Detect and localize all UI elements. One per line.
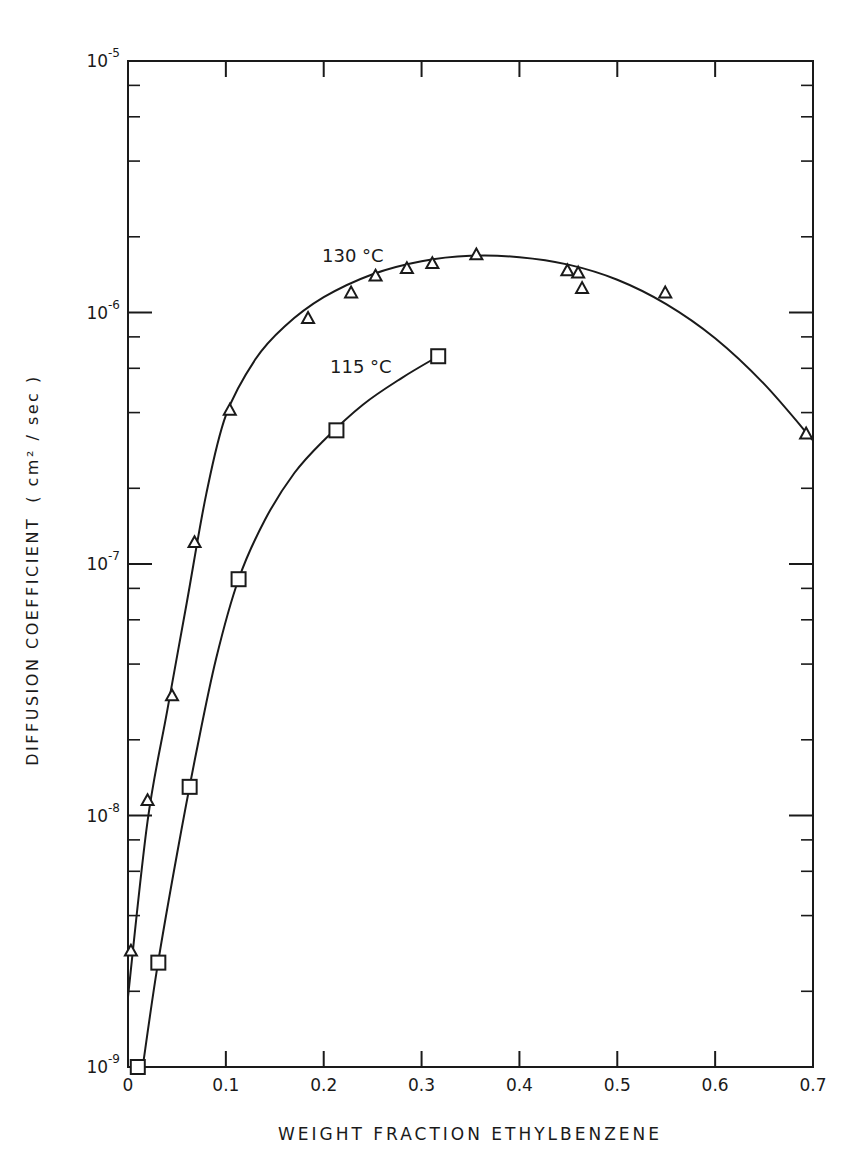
axis-ticks — [128, 61, 813, 1067]
label-115C: 115 °C — [330, 356, 392, 377]
y-tick-label: 10-5 — [86, 46, 120, 71]
square-marker — [183, 780, 197, 794]
plot-frame — [128, 61, 813, 1067]
y-axis-title: DIFFUSION COEFFICIENT( cm² / sec ) — [23, 374, 42, 765]
x-tick-label: 0.7 — [799, 1075, 826, 1095]
fit-curve — [143, 356, 439, 1067]
triangle-marker — [345, 287, 357, 298]
x-tick-label: 0.6 — [702, 1075, 729, 1095]
fit-curve — [128, 256, 813, 997]
x-tick-label: 0.4 — [506, 1075, 533, 1095]
triangle-marker — [166, 690, 178, 701]
triangle-marker — [302, 312, 314, 323]
square-marker — [232, 572, 246, 586]
y-axis-title-units: ( cm² / sec ) — [23, 374, 42, 503]
data-markers — [125, 249, 812, 1074]
y-tick-label: 10-6 — [86, 298, 120, 323]
series-annotations: 130 °C115 °C — [322, 245, 392, 377]
chart-canvas: 00.10.20.30.40.50.60.710-910-810-710-610… — [0, 0, 860, 1167]
axis-tick-labels: 00.10.20.30.40.50.60.710-910-810-710-610… — [86, 46, 826, 1095]
square-marker — [151, 956, 165, 970]
square-marker — [131, 1060, 145, 1074]
x-tick-label: 0.5 — [604, 1075, 631, 1095]
triangle-marker — [470, 249, 482, 260]
x-tick-label: 0.1 — [212, 1075, 239, 1095]
x-axis-title: WEIGHT FRACTION ETHYLBENZENE — [278, 1124, 662, 1144]
triangle-marker — [125, 945, 137, 956]
plot-axes — [128, 61, 813, 1067]
y-axis-title-main: DIFFUSION COEFFICIENT — [23, 517, 42, 766]
label-130C: 130 °C — [322, 245, 384, 266]
x-tick-label: 0.2 — [310, 1075, 337, 1095]
y-tick-label: 10-8 — [86, 801, 120, 826]
square-marker — [329, 423, 343, 437]
triangle-marker — [224, 404, 236, 415]
y-tick-label: 10-9 — [86, 1052, 120, 1077]
x-tick-label: 0.3 — [408, 1075, 435, 1095]
y-tick-label: 10-7 — [86, 549, 120, 574]
triangle-marker — [576, 282, 588, 293]
triangle-marker — [800, 428, 812, 439]
square-marker — [431, 349, 445, 363]
x-tick-label: 0 — [123, 1075, 134, 1095]
triangle-marker — [659, 287, 671, 298]
fit-curves — [128, 256, 813, 1067]
